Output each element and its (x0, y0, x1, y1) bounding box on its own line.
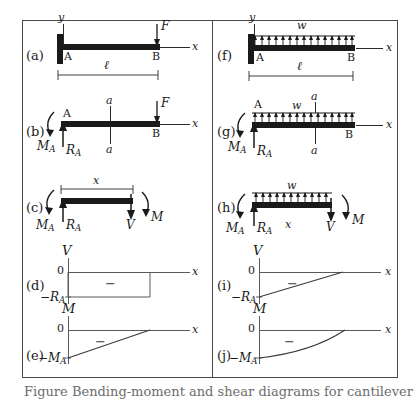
panel-j-sign-label: − (284, 335, 295, 348)
panel-j-moment-curve (0, 0, 420, 400)
figure-root: (a) y x F A B ℓ (b) x F (0, 0, 420, 405)
figure-caption: Figure Bending-moment and shear diagrams… (24, 384, 414, 399)
